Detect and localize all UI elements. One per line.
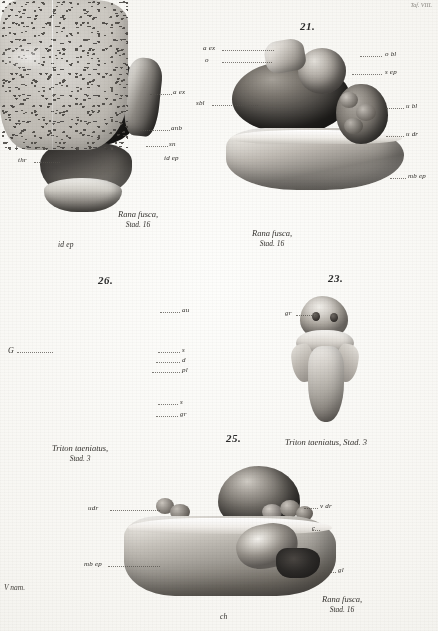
figure-21-number: 21. [300,20,315,32]
figure-25-caption: Rana fusca, Stad. 16 [322,594,362,614]
leader-line [140,130,170,131]
figure-26-number: 26. [98,274,113,286]
label-o: o [205,56,209,64]
label-G: G [8,346,14,355]
leader-line [158,404,178,405]
leader-line [212,105,258,106]
label-mb-ep: mb ep [84,560,102,568]
plate-corner-note: Taf. VIII. [410,2,432,8]
leader-line [352,74,382,75]
label-anb: anb [171,124,182,132]
figure-20-below-label: id ep [58,240,74,249]
leader-line [222,62,272,63]
label-a-ex: a ex [173,88,185,96]
label-u-dr: u dr [406,130,418,138]
leader-line [160,312,180,313]
leader-line [360,56,382,57]
figure-26-caption-line1: Triton taeniatus, [52,443,108,453]
leader-line [34,162,60,163]
leader-line [152,372,180,373]
figure-23-eye [330,313,338,322]
leader-line [156,362,180,363]
label-thr: thr [18,156,27,164]
figure-25-number: 25. [226,432,241,444]
figure-23-caption: Triton taeniatus, Stad. 3 [285,437,367,448]
figure-23-caption-line1: Triton taeniatus, Stad. 3 [285,437,367,447]
leader-line [386,108,404,109]
lithographic-plate: Taf. VIII. 20. s ep o bl o dr l a v t r … [0,0,438,631]
leader-line [222,50,274,51]
leader-line [17,352,53,353]
figure-20-flap [122,56,164,137]
label-au: au [182,306,189,314]
label-udr: udr [88,504,98,512]
leader-line [390,178,406,179]
figure-26-caption-line2: Stad. 3 [52,454,108,463]
figure-25-caption-line1: Rana fusca, [322,594,362,604]
label-gr: gr [285,309,292,317]
label-sn: sn [169,140,176,148]
figure-21-node [340,92,358,108]
figure-21-node [344,118,363,134]
label-s: s [182,346,185,354]
leader-line [156,416,178,417]
figure-20-caption-line1: Rana fusca, [118,209,158,219]
leader-line [322,572,336,573]
figure-25-sheet-highlight [128,518,332,534]
leader-line [150,94,172,95]
leader-line [386,136,404,137]
leader-line [304,508,318,509]
figure-26-fold-line [52,0,53,150]
figure-20-rim [44,178,122,212]
figure-26-section [0,0,128,150]
figure-21-caption: Rana fusca, Stad. 16 [252,228,292,248]
label-v-dr: v dr [320,502,332,510]
label-gr: gr [180,410,187,418]
leader-line [158,352,180,353]
label-mb-ep: mb ep [408,172,426,180]
figure-25-aperture [276,548,320,578]
leader-line [108,566,160,567]
figure-26-caption: Triton taeniatus, Stad. 3 [52,443,108,463]
plate-margin-note: V nam. [4,583,25,592]
label-a-ex: a ex [203,44,215,52]
figure-26: 26. G au s d pl s gr Triton taeniatus, S… [0,0,128,150]
label-c: c [312,524,315,532]
figure-20-caption: Rana fusca, Stad. 16 [118,209,158,229]
figure-23-number: 23. [328,272,343,284]
leader-line [146,146,168,147]
leader-line [110,510,160,511]
figure-21-caption-line2: Stad. 16 [252,239,292,248]
figure-25-below-label: ch [220,612,227,621]
label-s-ep: s ep [385,68,397,76]
figure-23-eye [312,312,320,321]
label-id-ep: id ep [164,154,179,162]
label-u-bl: u bl [406,102,418,110]
label-sbl: sbl [196,99,205,107]
figure-21-node [356,104,376,121]
figure-25-caption-line2: Stad. 16 [322,605,362,614]
label-o-bl: o bl [385,50,397,58]
figure-26-notch [0,44,40,70]
figure-26-stipple-texture [0,0,128,150]
leader-line [296,315,318,316]
label-gl: gl [338,566,344,574]
label-s-lower: s [180,398,183,406]
label-d: d [182,356,186,364]
figure-21-caption-line1: Rana fusca, [252,228,292,238]
figure-20-caption-line2: Stad. 16 [118,220,158,229]
label-pl: pl [182,366,188,374]
figure-23-trunk [308,346,344,422]
